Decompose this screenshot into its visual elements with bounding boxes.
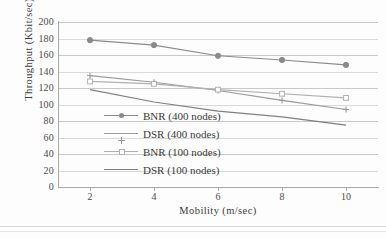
legend-label: BNR (100 nodes) — [143, 146, 221, 158]
data-point-marker — [280, 91, 285, 96]
x-axis-title: Mobility (m/sec) — [58, 205, 378, 216]
data-point-marker — [151, 43, 156, 48]
data-point-marker — [87, 73, 93, 79]
chart-legend: BNR (400 nodes)DSR (400 nodes)BNR (100 n… — [104, 107, 264, 179]
x-axis-tick — [218, 187, 219, 191]
legend-key-icon — [104, 146, 138, 158]
x-axis-tick — [154, 187, 155, 191]
x-axis-tick — [346, 187, 347, 191]
data-point-marker — [216, 87, 221, 92]
legend-item-dsr-100-nodes[interactable]: DSR (100 nodes) — [104, 161, 264, 179]
x-axis-tick — [90, 187, 91, 191]
data-point-marker — [279, 97, 285, 103]
y-tick-label: 40 — [6, 149, 54, 159]
data-point-marker — [215, 53, 220, 58]
x-tick-label: 2 — [75, 191, 105, 202]
chart-figure: 020406080100120140160180200 Throughput (… — [0, 0, 386, 238]
data-point-marker — [152, 81, 157, 86]
data-point-marker — [344, 96, 349, 101]
legend-item-bnr-400-nodes[interactable]: BNR (400 nodes) — [104, 107, 264, 125]
legend-key-icon — [104, 128, 138, 140]
y-axis-line — [58, 21, 59, 188]
legend-key-icon — [104, 110, 138, 122]
data-point-marker — [87, 38, 92, 43]
data-point-marker — [88, 79, 93, 84]
x-tick-label: 10 — [331, 191, 361, 202]
y-tick-label: 60 — [6, 133, 54, 143]
x-axis-tick — [282, 187, 283, 191]
legend-label: DSR (400 nodes) — [143, 128, 219, 140]
y-tick-label: 20 — [6, 166, 54, 176]
legend-item-bnr-100-nodes[interactable]: BNR (100 nodes) — [104, 143, 264, 161]
data-point-marker — [343, 106, 349, 112]
legend-item-dsr-400-nodes[interactable]: DSR (400 nodes) — [104, 125, 264, 143]
data-point-marker — [279, 57, 284, 62]
legend-key-icon — [104, 164, 138, 176]
series-line — [90, 40, 346, 65]
y-axis-title: Throughput (Kbit/sec) — [23, 0, 34, 130]
x-tick-label: 4 — [139, 191, 169, 202]
y-tick-label: 0 — [6, 182, 54, 192]
data-point-marker — [343, 62, 348, 67]
legend-label: BNR (400 nodes) — [143, 110, 221, 122]
legend-label: DSR (100 nodes) — [143, 164, 219, 176]
page-rule-bottom — [0, 231, 386, 232]
page-rule-top — [0, 226, 386, 227]
x-tick-label: 8 — [267, 191, 297, 202]
x-tick-label: 6 — [203, 191, 233, 202]
